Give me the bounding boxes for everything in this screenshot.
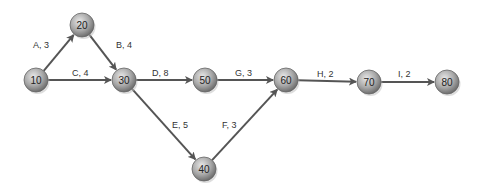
edge-20-30 [89,35,116,70]
edges-layer: A, 3B, 4C, 4D, 8E, 5G, 3F, 3H, 2I, 2 [33,35,434,161]
node-label: 20 [76,20,88,31]
edge-label: C, 4 [72,68,89,78]
edge-label: B, 4 [116,40,132,50]
node-50: 50 [193,68,219,94]
node-40: 40 [192,157,218,183]
node-80: 80 [435,70,461,96]
node-label: 70 [363,77,375,88]
node-label: 30 [118,75,130,86]
node-label: 40 [198,164,210,175]
node-10: 10 [24,68,50,94]
network-diagram: A, 3B, 4C, 4D, 8E, 5G, 3F, 3H, 2I, 2 102… [0,0,486,193]
node-60: 60 [274,68,300,94]
nodes-layer: 1020304050607080 [24,13,461,183]
edge-label: I, 2 [398,69,411,79]
node-20: 20 [70,13,96,39]
node-30: 30 [112,68,138,94]
edge-60-70 [298,80,356,81]
node-label: 60 [280,75,292,86]
edge-label: F, 3 [222,120,237,130]
edge-label: A, 3 [33,40,49,50]
node-label: 80 [441,77,453,88]
edge-label: D, 8 [152,68,169,78]
node-label: 10 [30,75,42,86]
edge-label: H, 2 [317,69,334,79]
node-70: 70 [357,70,383,96]
node-label: 50 [199,75,211,86]
edge-label: E, 5 [172,120,188,130]
edge-label: G, 3 [235,68,252,78]
